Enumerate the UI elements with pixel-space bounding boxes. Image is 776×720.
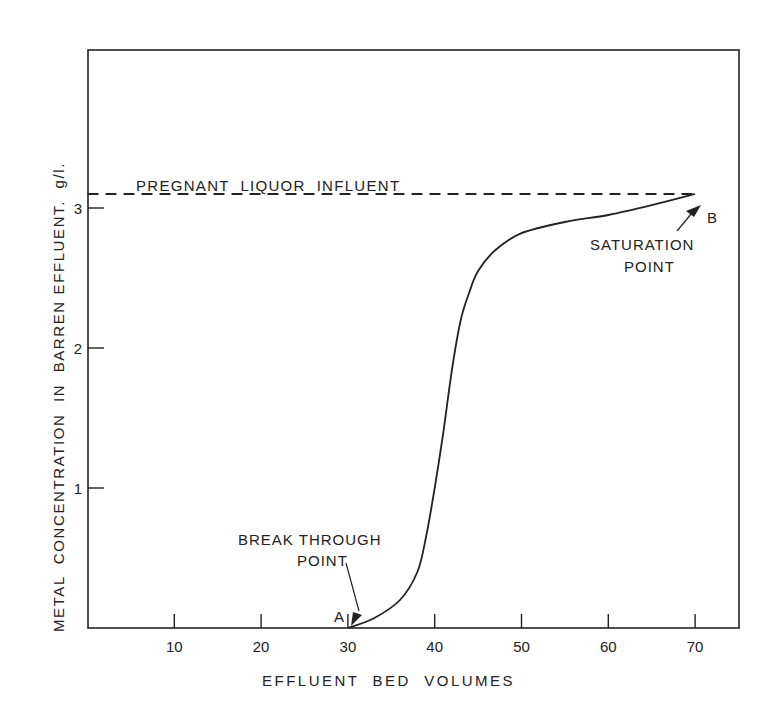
y-axis-ticks: 123: [74, 200, 104, 497]
x-axis-ticks: 10203040506070: [166, 614, 703, 655]
breakthrough-chart: 10203040506070 123 PREGNANT LIQUOR INFLU…: [0, 0, 776, 720]
plot-frame: [88, 50, 739, 628]
point-a-label: A: [334, 608, 345, 625]
x-tick-label: 60: [600, 638, 617, 655]
saturation-label-line1: SATURATION: [590, 236, 694, 253]
x-tick-label: 70: [687, 638, 704, 655]
breakthrough-label-line1: BREAK THROUGH: [238, 531, 382, 548]
saturation-arrow: [677, 213, 692, 231]
saturation-arrowhead-icon: [686, 205, 701, 217]
x-axis-title: EFFLUENT BED VOLUMES: [262, 672, 515, 689]
x-tick-label: 20: [253, 638, 270, 655]
breakthrough-arrow: [346, 563, 359, 611]
y-tick-label: 2: [74, 340, 82, 357]
x-tick-label: 50: [513, 638, 530, 655]
x-tick-label: 10: [166, 638, 183, 655]
point-b-label: B: [707, 209, 718, 226]
saturation-label-line2: POINT: [624, 258, 675, 275]
x-tick-label: 30: [340, 638, 357, 655]
y-axis-title: METAL CONCENTRATION IN BARREN EFFLUENT. …: [50, 162, 67, 632]
x-tick-label: 40: [426, 638, 443, 655]
breakthrough-label-line2: POINT: [297, 552, 348, 569]
series-layer: [88, 194, 696, 628]
influent-label: PREGNANT LIQUOR INFLUENT: [136, 177, 400, 194]
y-tick-label: 1: [74, 480, 82, 497]
y-tick-label: 3: [74, 200, 82, 217]
